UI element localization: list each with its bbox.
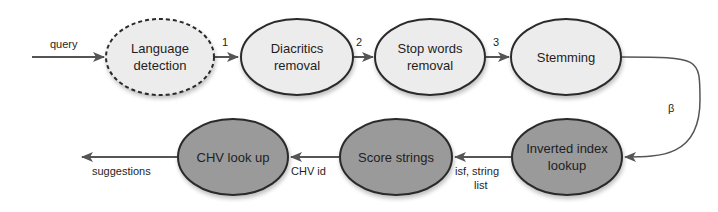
edge-label-isf: isf, string (455, 165, 499, 177)
node-label-line2: removal (274, 58, 320, 73)
edge-2: 2 (354, 36, 373, 57)
node-label-line2: lookup (548, 158, 586, 173)
node-language-detection: Language detection (106, 19, 214, 95)
edge-1: 1 (215, 36, 238, 57)
node-label-line1: Inverted index (526, 141, 608, 156)
pipeline-diagram: query 1 2 3 β isf, string list CHV id su… (0, 0, 718, 212)
edge-label-chv-id: CHV id (291, 165, 326, 177)
edge-label-3: 3 (493, 36, 499, 48)
node-label-line1: Score strings (358, 150, 434, 165)
node-chv-look-up: CHV look up (178, 119, 288, 195)
node-stop-words-removal: Stop words removal (375, 19, 485, 95)
node-stemming: Stemming (511, 19, 621, 95)
node-label-line1: Stop words (397, 41, 463, 56)
edge-label-list: list (474, 179, 487, 191)
edge-chv-id: CHV id (291, 157, 339, 177)
node-label-line2: detection (134, 58, 187, 73)
node-label-line1: Stemming (537, 50, 596, 65)
edge-label-1: 1 (222, 36, 228, 48)
node-diacritics-removal: Diacritics removal (241, 19, 353, 95)
node-score-strings: Score strings (340, 119, 452, 195)
edge-isf: isf, string list (455, 157, 511, 191)
edge-query: query (32, 38, 104, 57)
node-label-line1: Language (131, 41, 189, 56)
node-label-line2: removal (407, 58, 453, 73)
edge-label-query: query (50, 38, 78, 50)
node-label-line1: Diacritics (271, 41, 324, 56)
edge-beta: β (622, 57, 700, 157)
edge-3: 3 (486, 36, 509, 57)
edge-label-beta: β (668, 102, 674, 114)
node-label-line1: CHV look up (197, 150, 270, 165)
edge-label-2: 2 (356, 36, 362, 48)
edge-suggestions: suggestions (82, 157, 177, 177)
node-inverted-index-lookup: Inverted index lookup (512, 119, 622, 195)
edge-label-suggestions: suggestions (92, 165, 151, 177)
